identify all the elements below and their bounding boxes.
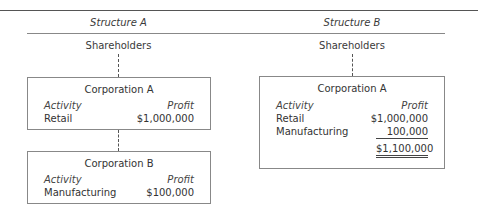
activity-manufacturing: Manufacturing	[44, 187, 116, 198]
profit-manufacturing: 100,000	[376, 126, 428, 139]
profit-manufacturing: $100,000	[146, 187, 194, 198]
activity-header: Activity	[44, 100, 82, 111]
structure-a-connector-subsidiary	[118, 130, 119, 151]
activity-manufacturing: Manufacturing	[276, 126, 348, 137]
activity-header: Activity	[276, 100, 314, 111]
profit-retail: $1,000,000	[371, 113, 428, 124]
structure-a-connector-shareholders	[118, 54, 119, 77]
activity-header: Activity	[44, 174, 82, 185]
structure-b-heading: Structure B	[259, 17, 445, 28]
structure-b-shareholders: Shareholders	[259, 40, 445, 51]
structure-a-corporation-a-box: Corporation A Activity Profit Retail $1,…	[27, 77, 211, 130]
corporation-b-title: Corporation B	[28, 158, 210, 169]
corporation-a-title: Corporation A	[28, 84, 210, 95]
structure-a-corporation-b-box: Corporation B Activity Profit Manufactur…	[27, 151, 211, 204]
structure-a-shareholders: Shareholders	[27, 40, 210, 51]
profit-header: Profit	[401, 100, 428, 111]
top-rule	[0, 10, 478, 11]
structure-a-heading: Structure A	[27, 17, 210, 28]
profit-retail: $1,000,000	[137, 113, 194, 124]
structure-b-connector-shareholders	[352, 54, 353, 76]
profit-total: $1,100,000	[376, 143, 428, 158]
heading-rule	[27, 33, 445, 34]
profit-header: Profit	[167, 174, 194, 185]
activity-retail: Retail	[44, 113, 72, 124]
profit-header: Profit	[167, 100, 194, 111]
corporation-a-title: Corporation A	[260, 83, 444, 94]
activity-retail: Retail	[276, 113, 304, 124]
structure-b-corporation-a-box: Corporation A Activity Profit Retail $1,…	[259, 76, 445, 169]
